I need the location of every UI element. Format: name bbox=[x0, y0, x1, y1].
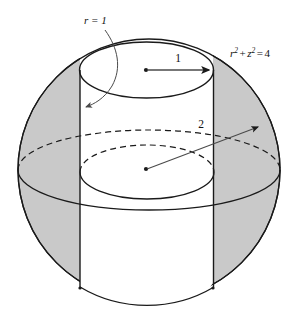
label-sphere-equation-r-exp: 2 bbox=[234, 46, 238, 55]
label-sphere-equation-equals: = bbox=[257, 47, 263, 59]
bottom-intersection-dot-right bbox=[211, 286, 214, 289]
bottom-intersection-dot-left bbox=[78, 286, 81, 289]
sphere-shaded-left bbox=[0, 0, 80, 320]
label-radius-two: 2 bbox=[198, 118, 204, 130]
label-cylinder-radius: r = 1 bbox=[84, 14, 107, 26]
label-radius-one: 1 bbox=[175, 52, 181, 64]
sphere-cylinder-diagram: r = 1 r2+z2=4 1 2 bbox=[0, 0, 299, 320]
label-sphere-equation-rhs: 4 bbox=[265, 47, 271, 59]
figure-container: r = 1 r2+z2=4 1 2 bbox=[0, 0, 299, 320]
label-sphere-equation-z-exp: 2 bbox=[252, 46, 256, 55]
label-sphere-equation: r2+z2=4 bbox=[230, 46, 271, 59]
label-sphere-equation-plus: + bbox=[240, 47, 246, 59]
